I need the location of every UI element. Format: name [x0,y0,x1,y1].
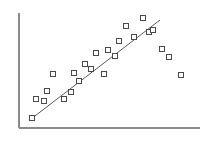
data-point [117,39,122,44]
data-point [179,73,184,78]
data-point [106,48,111,53]
data-point [34,97,39,102]
plot-canvas [0,0,211,141]
data-point [141,16,146,21]
data-point [124,24,129,29]
data-point [30,116,35,121]
data-point [151,28,156,33]
data-point [42,99,47,104]
data-point [113,54,118,59]
data-point [69,90,74,95]
scatter-plot-figure [0,0,211,141]
data-point [132,35,137,40]
data-point [160,47,165,52]
data-point-group [30,16,184,121]
data-point [94,51,99,56]
data-point [89,67,94,72]
data-point [51,72,56,77]
data-point [77,79,82,84]
data-point [62,97,67,102]
data-point [45,89,50,94]
data-point [72,71,77,76]
data-point [102,72,107,77]
data-point [167,55,172,60]
data-point [83,62,88,67]
regression-line [31,20,160,119]
